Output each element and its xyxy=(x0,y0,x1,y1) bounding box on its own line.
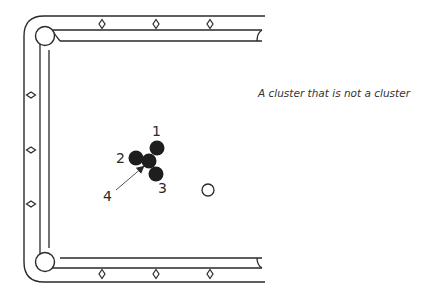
corner-pocket-top-left xyxy=(36,27,55,46)
ball-label-4: 4 xyxy=(103,188,112,204)
diamond-marker-icon xyxy=(27,92,36,98)
diamond-marker-icon xyxy=(27,201,36,207)
ball-label-2: 2 xyxy=(116,150,125,166)
bottom-cushion xyxy=(52,258,262,268)
object-ball-4 xyxy=(142,154,157,169)
corner-pocket-bottom-left xyxy=(36,253,55,272)
top-cushion xyxy=(52,30,262,41)
arrow-to-ball-4 xyxy=(116,167,143,190)
object-ball-1 xyxy=(150,141,165,156)
diamond-marker-icon xyxy=(207,270,213,279)
diamond-marker-icon xyxy=(207,20,213,29)
diamond-marker-icon xyxy=(153,270,159,279)
object-ball-2 xyxy=(129,151,144,166)
ball-label-3: 3 xyxy=(158,180,167,196)
diagram-caption: A cluster that is not a cluster xyxy=(258,87,410,99)
ball-label-1: 1 xyxy=(152,123,161,139)
bottom-side-pocket xyxy=(257,258,262,268)
pool-table-diagram: 1234 A cluster that is not a cluster xyxy=(0,0,424,299)
table-svg: 1234 xyxy=(0,0,424,299)
top-side-pocket xyxy=(257,30,262,41)
diamond-marker-icon xyxy=(99,270,105,279)
diamond-marker-icon xyxy=(99,20,105,29)
left-cushion xyxy=(40,44,49,254)
outer-rail xyxy=(24,16,265,282)
diamond-marker-icon xyxy=(27,147,36,153)
cue-ball xyxy=(202,184,214,196)
rail-diamonds xyxy=(27,20,214,279)
diamond-marker-icon xyxy=(153,20,159,29)
